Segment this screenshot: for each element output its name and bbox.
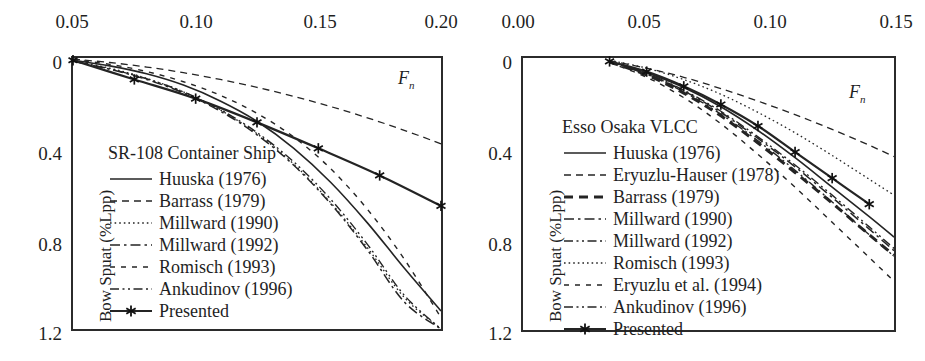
left-ytick-1: 0.4 <box>16 144 62 163</box>
data-point-marker <box>753 121 762 131</box>
legend-key-marker-icon <box>108 300 154 322</box>
legend-item-label: Eryuzlu et al. (1994) <box>613 275 762 296</box>
legend-key-dashdot-icon <box>108 234 154 256</box>
series-line <box>73 59 441 144</box>
right-ytick-3: 1.2 <box>466 324 512 343</box>
legend-line-sample <box>562 186 608 208</box>
left-chart-panel: 0.05 0.10 0.15 0.20 0 0.4 0.8 1.2 Bow Sp… <box>0 0 462 361</box>
data-point-marker <box>375 170 384 180</box>
legend-item-label: Ankudinov (1996) <box>159 279 293 300</box>
legend-key-dashdotdot-icon <box>108 278 154 300</box>
legend-line-sample <box>108 168 154 190</box>
right-legend-item[interactable]: Huuska (1976) <box>562 142 779 164</box>
legend-item-label: Ankudinov (1996) <box>613 297 747 318</box>
right-xtick-1: 0.05 <box>627 12 660 31</box>
left-fn-letter: F <box>398 68 409 88</box>
legend-item-label: Presented <box>159 301 229 322</box>
squat-comparison-figure: 0.05 0.10 0.15 0.20 0 0.4 0.8 1.2 Bow Sp… <box>0 0 925 361</box>
legend-key-dotted-icon <box>108 212 154 234</box>
right-fn-letter: F <box>849 82 860 102</box>
left-xtick-3: 0.20 <box>424 12 457 31</box>
legend-line-sample <box>562 318 608 340</box>
legend-line-sample <box>562 296 608 318</box>
right-ytick-1: 0.4 <box>466 144 512 163</box>
data-point-marker <box>828 173 837 183</box>
right-legend-item[interactable]: Millward (1990) <box>562 208 779 230</box>
legend-key-solid-icon <box>108 168 154 190</box>
right-xtick-2: 0.10 <box>753 12 786 31</box>
legend-item-label: Huuska (1976) <box>159 169 266 190</box>
left-fn-label: Fn <box>398 68 415 91</box>
legend-line-sample <box>108 212 154 234</box>
legend-item-label: Barrass (1979) <box>159 191 265 212</box>
left-fn-subscript: n <box>409 79 415 91</box>
legend-key-dashed-icon <box>562 164 608 186</box>
data-point-marker <box>314 143 323 153</box>
legend-key-marker-icon <box>562 318 608 340</box>
legend-item-label: Romisch (1993) <box>159 257 276 278</box>
legend-item-label: Presented <box>613 319 683 340</box>
right-legend-item[interactable]: Eryuzlu et al. (1994) <box>562 274 779 296</box>
left-xtick-1: 0.10 <box>179 12 212 31</box>
legend-line-sample <box>562 208 608 230</box>
legend-key-bold-dashed-icon <box>562 186 608 208</box>
legend-key-dashdot-icon <box>562 208 608 230</box>
data-point-marker <box>437 201 446 211</box>
right-chart-title: Esso Osaka VLCC <box>562 117 698 138</box>
right-legend-item[interactable]: Ankudinov (1996) <box>562 296 779 318</box>
left-legend-item[interactable]: Barrass (1979) <box>108 190 293 212</box>
right-legend-item[interactable]: Millward (1992) <box>562 230 779 252</box>
legend-key-longdash-icon <box>108 256 154 278</box>
legend-line-sample <box>108 278 154 300</box>
legend-item-label: Eryuzlu-Hauser (1978) <box>613 165 779 186</box>
left-ytick-0: 0 <box>40 53 62 72</box>
right-legend-item[interactable]: Presented <box>562 318 779 340</box>
legend-line-sample <box>108 190 154 212</box>
right-legend-item[interactable]: Eryuzlu-Hauser (1978) <box>562 164 779 186</box>
left-xtick-2: 0.15 <box>303 12 336 31</box>
left-ytick-3: 1.2 <box>16 324 62 343</box>
left-legend-item[interactable]: Ankudinov (1996) <box>108 278 293 300</box>
legend-item-label: Huuska (1976) <box>613 143 720 164</box>
legend-line-sample <box>108 256 154 278</box>
legend-line-sample <box>562 230 608 252</box>
right-fn-subscript: n <box>860 93 866 105</box>
legend-line-sample <box>562 274 608 296</box>
left-legend-item[interactable]: Romisch (1993) <box>108 256 293 278</box>
right-legend-item[interactable]: Barrass (1979) <box>562 186 779 208</box>
legend-line-sample <box>108 234 154 256</box>
legend-item-label: Millward (1992) <box>613 231 732 252</box>
legend-line-sample <box>562 252 608 274</box>
legend-key-dashed-icon <box>108 190 154 212</box>
data-point-marker <box>865 199 874 209</box>
left-legend-item[interactable]: Millward (1992) <box>108 234 293 256</box>
legend-item-label: Millward (1990) <box>613 209 732 230</box>
legend-key-longdash-icon <box>562 274 608 296</box>
right-ytick-2: 0.8 <box>466 235 512 254</box>
legend-item-label: Barrass (1979) <box>613 187 719 208</box>
legend-key-dotted-icon <box>562 252 608 274</box>
right-xtick-3: 0.15 <box>879 12 912 31</box>
left-legend-item[interactable]: Huuska (1976) <box>108 168 293 190</box>
legend-item-label: Millward (1992) <box>159 235 278 256</box>
legend-line-sample <box>562 142 608 164</box>
right-ytick-0: 0 <box>490 53 512 72</box>
legend-line-sample <box>562 164 608 186</box>
legend-item-label: Romisch (1993) <box>613 253 730 274</box>
legend-key-solid-icon <box>562 142 608 164</box>
left-chart-title: SR-108 Container Ship <box>108 143 276 164</box>
right-xtick-0: 0.00 <box>501 12 534 31</box>
right-legend-item[interactable]: Romisch (1993) <box>562 252 779 274</box>
right-legend: Huuska (1976)Eryuzlu-Hauser (1978)Barras… <box>562 142 779 340</box>
legend-line-sample <box>108 300 154 322</box>
right-fn-label: Fn <box>849 82 866 105</box>
left-legend-item[interactable]: Millward (1990) <box>108 212 293 234</box>
left-ytick-2: 0.8 <box>16 235 62 254</box>
legend-key-dashdotdot-icon <box>562 230 608 252</box>
left-legend-item[interactable]: Presented <box>108 300 293 322</box>
left-legend: Huuska (1976)Barrass (1979)Millward (199… <box>108 168 293 322</box>
left-xtick-0: 0.05 <box>55 12 88 31</box>
legend-item-label: Millward (1990) <box>159 213 278 234</box>
legend-key-dashdotdot-icon <box>562 296 608 318</box>
right-chart-panel: 0.00 0.05 0.10 0.15 0 0.4 0.8 1.2 Bow Sp… <box>462 0 925 361</box>
